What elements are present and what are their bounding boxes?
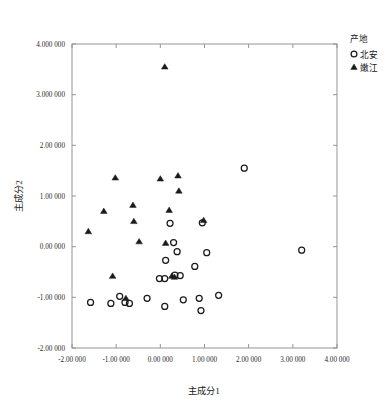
- y-tick-label: 3.000 000: [36, 91, 65, 99]
- legend-triangle-filled-icon: [351, 64, 357, 70]
- data-point-circle: [299, 247, 305, 253]
- data-point-triangle: [112, 175, 119, 180]
- y-tick-label: 0.00 000: [40, 243, 66, 251]
- y-axis-title: 主成分2: [13, 180, 24, 212]
- y-tick-label: 4.000 000: [36, 41, 65, 49]
- data-point-circle: [180, 297, 186, 303]
- series-beian-points: [88, 165, 305, 313]
- data-point-circle: [204, 250, 210, 256]
- data-point-circle: [192, 263, 198, 269]
- y-tick-label: 2.00 000: [40, 142, 66, 150]
- x-tick-label: 2.00 000: [236, 356, 262, 364]
- data-point-triangle: [176, 188, 183, 193]
- x-axis-title: 主成分1: [188, 385, 220, 396]
- y-axis-ticks: 4.000 0003.000 0002.00 0001.00 0000.00 0…: [36, 41, 337, 353]
- data-point-circle: [162, 303, 168, 309]
- x-tick-label: -2.00 000: [58, 356, 86, 364]
- data-point-triangle: [131, 218, 138, 223]
- data-point-triangle: [109, 273, 116, 278]
- x-tick-label: -1.00 000: [102, 356, 130, 364]
- data-point-circle: [216, 292, 222, 298]
- data-point-circle: [196, 295, 202, 301]
- data-point-circle: [174, 249, 180, 255]
- data-point-triangle: [166, 207, 173, 212]
- data-point-triangle: [157, 176, 164, 181]
- data-point-triangle: [162, 240, 169, 245]
- data-point-circle: [241, 165, 247, 171]
- data-point-triangle: [130, 202, 137, 207]
- data-point-circle: [167, 220, 173, 226]
- data-point-triangle: [136, 238, 143, 243]
- data-point-circle: [198, 308, 204, 314]
- legend-label-beian: 北安: [360, 49, 378, 60]
- scatter-plot: 4.000 0003.000 0002.00 0001.00 0000.00 0…: [0, 0, 392, 417]
- y-tick-label: -1.00 000: [37, 294, 65, 302]
- x-tick-label: 4.00 000: [324, 356, 350, 364]
- data-point-circle: [117, 293, 123, 299]
- data-point-triangle: [161, 64, 168, 69]
- data-point-circle: [171, 240, 177, 246]
- data-point-triangle: [101, 208, 108, 213]
- data-point-triangle: [175, 173, 182, 178]
- legend-circle-open-icon: [351, 51, 357, 57]
- y-tick-label: 1.00 000: [40, 193, 66, 201]
- data-point-triangle: [123, 295, 130, 300]
- plot-frame: [72, 44, 337, 348]
- legend: 产地 北安 嫩江: [346, 32, 390, 78]
- data-point-circle: [88, 299, 94, 305]
- x-axis-ticks: -2.00 000-1.00 0000.00 0001.00 0002.00 0…: [58, 44, 350, 364]
- chart-canvas: 4.000 0003.000 0002.00 0001.00 0000.00 0…: [0, 0, 392, 417]
- legend-title: 产地: [350, 33, 368, 44]
- data-point-circle: [108, 300, 114, 306]
- y-tick-label: -2.00 000: [37, 345, 65, 353]
- data-point-circle: [163, 257, 169, 263]
- data-point-circle: [144, 295, 150, 301]
- legend-label-nenjiang: 嫩江: [360, 62, 378, 73]
- x-tick-label: 1.00 000: [192, 356, 218, 364]
- x-tick-label: 3.00 000: [280, 356, 306, 364]
- series-nenjiang-points: [85, 64, 207, 301]
- data-point-triangle: [85, 228, 92, 233]
- x-tick-label: 0.00 000: [148, 356, 174, 364]
